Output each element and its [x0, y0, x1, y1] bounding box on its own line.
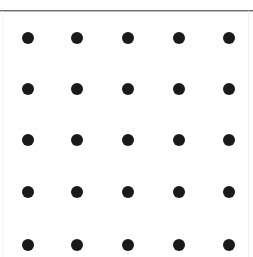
dot-marker: [173, 83, 185, 95]
dot-marker: [223, 186, 235, 198]
dot-marker: [122, 32, 134, 44]
dot-marker: [22, 186, 34, 198]
dot-marker: [71, 186, 83, 198]
dot-grid-figure: [0, 0, 253, 257]
dot-marker: [173, 134, 185, 146]
dot-marker: [122, 239, 134, 251]
dot-marker: [173, 186, 185, 198]
dot-marker: [22, 83, 34, 95]
dot-marker: [223, 239, 235, 251]
dot-marker: [71, 239, 83, 251]
dot-marker: [122, 134, 134, 146]
dot-marker: [22, 32, 34, 44]
dot-marker: [71, 134, 83, 146]
dot-marker: [173, 32, 185, 44]
dot-marker: [71, 32, 83, 44]
dot-grid-points: [0, 0, 253, 257]
dot-marker: [223, 83, 235, 95]
dot-marker: [71, 83, 83, 95]
dot-marker: [223, 32, 235, 44]
dot-marker: [122, 83, 134, 95]
dot-marker: [22, 239, 34, 251]
dot-marker: [122, 186, 134, 198]
dot-marker: [223, 134, 235, 146]
dot-marker: [22, 134, 34, 146]
dot-marker: [173, 239, 185, 251]
